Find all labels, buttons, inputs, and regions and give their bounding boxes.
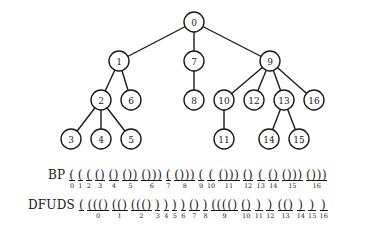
dfuds-group-node-14: )14 xyxy=(297,198,305,220)
tree-node-9: 9 xyxy=(260,51,280,71)
node-label: 11 xyxy=(218,135,229,145)
tree-node-0: 0 xyxy=(184,12,204,32)
bp-node-index: 2 xyxy=(87,182,91,190)
dfuds-underline xyxy=(112,210,128,211)
dfuds-underline xyxy=(203,210,208,211)
bp-underline xyxy=(268,180,279,181)
bp-underline xyxy=(198,180,203,181)
bp-group-node-15: ()))15 xyxy=(282,168,303,190)
bp-group-node-0: (0 xyxy=(69,168,74,190)
bp-node-index: 6 xyxy=(150,182,154,190)
dfuds-node-index: 5 xyxy=(173,212,177,220)
node-label: 9 xyxy=(267,57,273,67)
dfuds-underline xyxy=(255,210,263,211)
dfuds-node-index: 16 xyxy=(320,212,328,220)
tree-edges xyxy=(71,22,314,139)
bp-underline xyxy=(166,180,171,181)
dfuds-underline xyxy=(266,210,274,211)
bp-node-index: 16 xyxy=(313,182,321,190)
dfuds-group-node-9: (((()9 xyxy=(211,198,237,220)
node-label: 10 xyxy=(218,96,230,106)
dfuds-underline xyxy=(87,210,108,211)
tree-nodes: 017926810121316345111415 xyxy=(61,12,324,149)
tree-node-16: 16 xyxy=(304,90,324,110)
bp-node-index: 9 xyxy=(199,182,203,190)
bp-group-node-5: ())5 xyxy=(122,168,138,190)
tree-node-2: 2 xyxy=(91,90,111,110)
bp-underline xyxy=(207,180,215,181)
dfuds-underline xyxy=(320,210,328,211)
bp-sequence: (0(1(2()3()4())5()))6(7()))8(9(10()))11(… xyxy=(69,168,330,190)
tree-node-3: 3 xyxy=(61,129,81,149)
node-label: 0 xyxy=(191,18,197,28)
bp-label: BP xyxy=(48,168,65,182)
dfuds-node-index: 7 xyxy=(192,212,196,220)
dfuds-underline xyxy=(189,210,200,211)
node-label: 14 xyxy=(263,135,275,145)
dfuds-group-node-3: )3 xyxy=(155,198,160,220)
bp-group-node-9: (9 xyxy=(198,168,203,190)
bp-node-index: 11 xyxy=(225,182,233,190)
dfuds-underline xyxy=(241,210,252,211)
bp-group-node-2: (2 xyxy=(86,168,91,190)
bp-group-node-12: ()12 xyxy=(243,168,254,190)
node-label: 8 xyxy=(191,96,197,106)
dfuds-group-node-5: )5 xyxy=(172,198,177,220)
dfuds-node-index: 4 xyxy=(164,212,168,220)
bp-group-node-4: ()4 xyxy=(109,168,120,190)
dfuds-group-node-13: (()13 xyxy=(278,198,294,220)
bp-underline xyxy=(282,180,303,181)
dfuds-group-node-16: )16 xyxy=(320,198,328,220)
bp-group-node-1: (1 xyxy=(78,168,83,190)
tree-node-11: 11 xyxy=(214,129,234,149)
bp-node-index: 12 xyxy=(244,182,252,190)
dfuds-group-node-1: (()1 xyxy=(112,198,128,220)
bp-node-index: 13 xyxy=(257,182,265,190)
tree-node-10: 10 xyxy=(214,90,234,110)
tree-node-14: 14 xyxy=(259,129,279,149)
dfuds-underline xyxy=(131,210,152,211)
dfuds-underline xyxy=(297,210,305,211)
node-label: 12 xyxy=(248,96,259,106)
bp-underline xyxy=(69,180,74,181)
bp-underline xyxy=(174,180,195,181)
dfuds-group-node-10: ()10 xyxy=(241,198,252,220)
tree-node-6: 6 xyxy=(121,90,141,110)
bp-node-index: 3 xyxy=(98,182,102,190)
dfuds-node-index: 1 xyxy=(118,212,122,220)
bp-group-node-3: ()3 xyxy=(95,168,106,190)
bp-node-index: 0 xyxy=(70,182,74,190)
dfuds-node-index: 0 xyxy=(96,212,100,220)
bp-group-node-11: ()))11 xyxy=(218,168,239,190)
bp-underline xyxy=(218,180,239,181)
dfuds-node-index: 10 xyxy=(242,212,250,220)
dfuds-group-node-6: )6 xyxy=(181,198,186,220)
bp-underline xyxy=(257,180,265,181)
bp-group-node-14: ()14 xyxy=(268,168,279,190)
tree-edge xyxy=(194,22,270,61)
dfuds-underline xyxy=(211,210,237,211)
dfuds-sequence: ( ((()0(()1((()2)3)4)5)6()7)8(((()9()10)… xyxy=(79,198,331,220)
tree-node-15: 15 xyxy=(289,129,309,149)
bp-node-index: 1 xyxy=(78,182,82,190)
bp-group-node-7: (7 xyxy=(166,168,171,190)
dfuds-underline xyxy=(308,210,316,211)
bp-underline xyxy=(95,180,106,181)
node-label: 5 xyxy=(128,135,134,145)
dfuds-group-node-0: ((()0 xyxy=(87,198,108,220)
dfuds-underline xyxy=(79,210,84,211)
bp-node-index: 7 xyxy=(166,182,170,190)
bp-underline xyxy=(109,180,120,181)
dfuds-node-index: 14 xyxy=(297,212,305,220)
node-label: 16 xyxy=(308,96,320,106)
dfuds-node-index: 13 xyxy=(281,212,289,220)
bp-underline xyxy=(306,180,327,181)
bp-group-node-10: (10 xyxy=(207,168,215,190)
node-label: 15 xyxy=(293,135,305,145)
node-label: 2 xyxy=(98,96,104,106)
node-label: 13 xyxy=(278,96,290,106)
dfuds-node-index: 12 xyxy=(266,212,274,220)
bp-node-index: 15 xyxy=(288,182,296,190)
dfuds-group-node-15: )15 xyxy=(308,198,316,220)
bp-node-index: 4 xyxy=(112,182,116,190)
